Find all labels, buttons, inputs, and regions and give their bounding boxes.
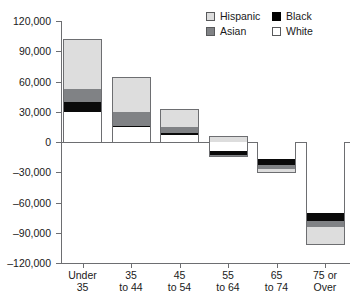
- bar-segment-white[interactable]: [209, 142, 248, 151]
- y-axis-tick-label: 60,000: [0, 77, 51, 87]
- x-axis-line: [56, 263, 350, 264]
- y-axis-tick: [56, 203, 62, 204]
- x-axis-category-label: 45 to 54: [154, 269, 206, 293]
- x-axis-tick: [180, 263, 181, 268]
- bar-group[interactable]: [160, 0, 199, 242]
- bar-segment-hispanic[interactable]: [306, 227, 345, 245]
- y-axis-tick-label: 120,000: [0, 16, 51, 26]
- y-axis-tick: [56, 172, 62, 173]
- x-axis-category-label: 75 or Over: [299, 269, 351, 293]
- y-axis-tick-label: –60,000: [0, 198, 51, 208]
- bar-group[interactable]: [257, 0, 296, 242]
- x-axis-tick: [277, 263, 278, 268]
- bar-segment-white[interactable]: [63, 112, 102, 142]
- x-axis-tick: [325, 263, 326, 268]
- x-axis-tick: [131, 263, 132, 268]
- bar-segment-black[interactable]: [160, 133, 199, 135]
- y-axis-tick-label: 30,000: [0, 107, 51, 117]
- y-axis-tick: [56, 142, 62, 143]
- stacked-bar-chart: Hispanic Black Asian White 120,00090,000…: [0, 0, 353, 298]
- x-axis-category-label: Under 35: [57, 269, 109, 293]
- bar-group[interactable]: [112, 0, 151, 242]
- y-axis-tick: [56, 21, 62, 22]
- bar-segment-white[interactable]: [257, 142, 296, 159]
- bar-segment-hispanic[interactable]: [63, 39, 102, 88]
- bar-segment-asian[interactable]: [112, 112, 151, 126]
- y-axis-tick: [56, 112, 62, 113]
- bar-segment-white[interactable]: [306, 142, 345, 213]
- y-axis-tick-label: 0: [0, 137, 51, 147]
- bar-segment-asian[interactable]: [209, 155, 248, 157]
- bar-segment-black[interactable]: [63, 102, 102, 112]
- y-axis-tick: [56, 82, 62, 83]
- bar-segment-hispanic[interactable]: [112, 77, 151, 111]
- bar-group[interactable]: [209, 0, 248, 242]
- bar-segment-asian[interactable]: [63, 89, 102, 102]
- bar-segment-black[interactable]: [112, 126, 151, 127]
- x-axis-tick: [228, 263, 229, 268]
- y-axis-tick: [56, 233, 62, 234]
- x-axis-tick: [83, 263, 84, 268]
- y-axis-tick-label: 90,000: [0, 46, 51, 56]
- bar-segment-asian[interactable]: [160, 127, 199, 133]
- bar-segment-white[interactable]: [112, 127, 151, 142]
- y-axis-tick-label: –30,000: [0, 167, 51, 177]
- x-axis-category-label: 55 to 64: [202, 269, 254, 293]
- bar-segment-white[interactable]: [160, 135, 199, 142]
- y-axis-tick: [56, 51, 62, 52]
- y-axis-tick-label: –120,000: [0, 258, 51, 268]
- y-axis-tick: [56, 263, 62, 264]
- y-axis-tick-label: –90,000: [0, 228, 51, 238]
- bar-group[interactable]: [63, 0, 102, 242]
- bar-group[interactable]: [306, 0, 345, 242]
- bar-segment-hispanic[interactable]: [160, 109, 199, 127]
- bar-segment-hispanic[interactable]: [257, 169, 296, 173]
- x-axis-category-label: 65 to 74: [251, 269, 303, 293]
- bar-segment-black[interactable]: [306, 213, 345, 221]
- x-axis-category-label: 35 to 44: [105, 269, 157, 293]
